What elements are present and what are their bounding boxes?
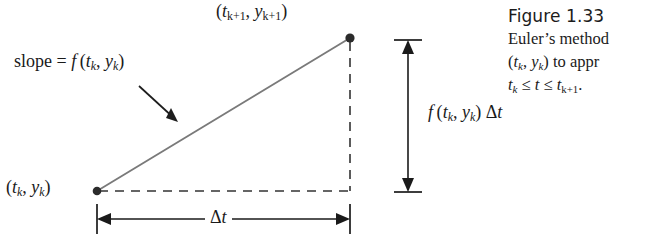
figure-caption-line-3: tk ≤ t ≤ tk+1. <box>508 74 653 97</box>
figure-caption-line-1: Euler’s method <box>508 28 653 51</box>
rise-dimension-arrow <box>394 40 422 192</box>
figure-caption-line-2: (tk, yk) to appr <box>508 51 653 74</box>
euler-method-diagram <box>0 0 500 242</box>
label-rise-dimension: f (tk, yk) Δt <box>428 103 502 124</box>
slope-pointer-arrow <box>139 86 178 122</box>
figure-caption: Figure 1.33 Euler’s method (tk, yk) to a… <box>508 6 653 96</box>
label-point-current: (tk, yk) <box>6 178 51 199</box>
end-point-dot <box>345 33 354 42</box>
label-run-dimension: Δt <box>205 208 232 226</box>
slope-segment <box>97 38 350 191</box>
figure-caption-title: Figure 1.33 <box>508 6 653 26</box>
start-point-dot <box>93 187 102 196</box>
euler-method-figure: (tk+1, yk+1) slope = f (tk, yk) f (tk, y… <box>0 0 653 242</box>
figure-caption-line-2-text: to appr <box>553 52 599 71</box>
figure-caption-line-3-text: . <box>578 75 582 94</box>
label-slope: slope = f (tk, yk) <box>14 52 124 73</box>
label-point-next: (tk+1, yk+1) <box>216 2 287 23</box>
